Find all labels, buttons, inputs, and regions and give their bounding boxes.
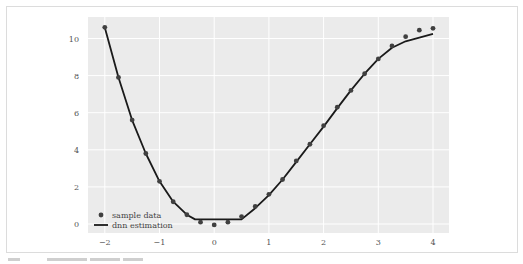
figure-caption-cropped — [8, 258, 188, 264]
data-point — [280, 177, 285, 182]
data-point — [212, 223, 217, 228]
data-point — [116, 75, 121, 80]
y-tick-label: 0 — [74, 220, 79, 229]
x-tick-label: 0 — [212, 238, 217, 247]
data-point — [253, 204, 258, 209]
x-tick-label: 4 — [430, 238, 435, 247]
data-point — [143, 151, 148, 156]
x-axis-ticks: −2−101234 — [99, 238, 436, 247]
data-point — [417, 28, 422, 33]
data-point — [321, 123, 326, 128]
data-point — [102, 25, 107, 30]
data-point — [335, 105, 340, 110]
y-tick-label: 4 — [74, 146, 79, 155]
y-axis-ticks: 0246810 — [69, 35, 79, 230]
x-tick-label: −1 — [154, 238, 166, 247]
data-point — [198, 220, 203, 225]
data-point — [225, 220, 230, 225]
data-point — [390, 44, 395, 49]
data-point — [267, 192, 272, 197]
data-point — [308, 142, 313, 147]
data-point — [349, 88, 354, 93]
data-point — [184, 212, 189, 217]
y-tick-label: 2 — [74, 183, 79, 192]
data-point — [431, 26, 436, 31]
x-tick-label: 3 — [376, 238, 381, 247]
legend-scatter-marker-icon — [99, 213, 104, 218]
legend-label-dnn-estimation: dnn estimation — [112, 221, 173, 230]
data-point — [157, 179, 162, 184]
data-point — [294, 159, 299, 164]
data-point — [403, 34, 408, 39]
legend-label-sample-data: sample data — [112, 211, 162, 220]
x-tick-label: −2 — [99, 238, 111, 247]
data-point — [362, 71, 367, 76]
line-chart: −2−101234 0246810 sample data dnn estima… — [0, 0, 523, 264]
y-tick-label: 8 — [74, 72, 79, 81]
x-tick-label: 1 — [266, 238, 271, 247]
data-point — [376, 57, 381, 62]
data-point — [130, 118, 135, 123]
x-tick-label: 2 — [321, 238, 326, 247]
y-tick-label: 6 — [74, 109, 79, 118]
data-point — [239, 214, 244, 219]
data-point — [171, 199, 176, 204]
y-tick-label: 10 — [69, 35, 79, 44]
